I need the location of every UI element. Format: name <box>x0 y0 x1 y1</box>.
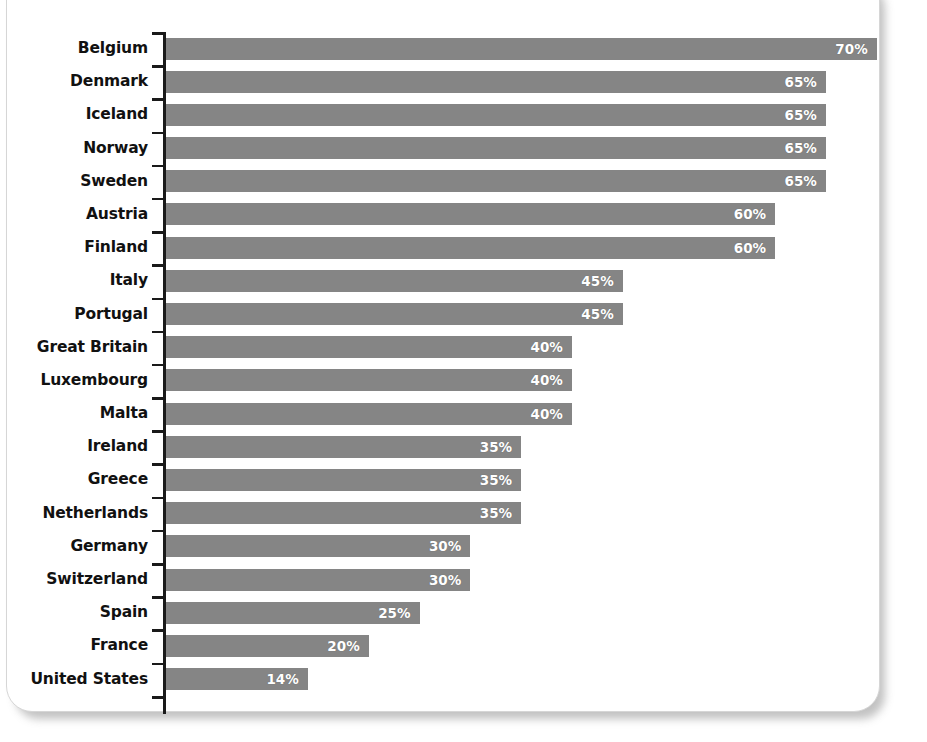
bar-container: 45% <box>166 270 623 292</box>
category-label: Italy <box>0 264 148 297</box>
bar-row: Ireland35% <box>0 430 927 463</box>
bar-rows: Belgium70%Denmark65%Iceland65%Norway65%S… <box>0 32 927 696</box>
category-label: Greece <box>0 463 148 496</box>
category-label: Iceland <box>0 98 148 131</box>
bar-row: Germany30% <box>0 530 927 563</box>
category-label: Norway <box>0 132 148 165</box>
bar-container: 70% <box>166 38 877 60</box>
axis-tick <box>152 397 165 400</box>
axis-tick <box>152 596 165 599</box>
bar-value-label: 60% <box>734 203 766 225</box>
bar-row: Netherlands35% <box>0 497 927 530</box>
category-label: Netherlands <box>0 497 148 530</box>
bar: 70% <box>166 38 877 60</box>
axis-tick <box>152 663 165 666</box>
bar: 40% <box>166 336 572 358</box>
axis-tick <box>152 198 165 201</box>
bar-row: United States14% <box>0 663 927 696</box>
axis-tick <box>152 65 165 68</box>
bar-value-label: 65% <box>785 104 817 126</box>
bar-row: Denmark65% <box>0 65 927 98</box>
bar-row: Spain25% <box>0 596 927 629</box>
bar-row: Austria60% <box>0 198 927 231</box>
axis-tick <box>152 98 165 101</box>
bar-value-label: 70% <box>835 38 867 60</box>
axis-tick <box>152 629 165 632</box>
axis-tick <box>152 298 165 301</box>
category-label: Austria <box>0 198 148 231</box>
bar-row: Finland60% <box>0 231 927 264</box>
bar-container: 40% <box>166 369 572 391</box>
bar-value-label: 35% <box>480 436 512 458</box>
bar-container: 14% <box>166 668 308 690</box>
bar-row: Sweden65% <box>0 165 927 198</box>
bar-row: Greece35% <box>0 463 927 496</box>
axis-tick <box>152 264 165 267</box>
axis-tick <box>152 463 165 466</box>
page-root: Belgium70%Denmark65%Iceland65%Norway65%S… <box>0 0 927 742</box>
bar: 30% <box>166 535 471 557</box>
bar-value-label: 30% <box>429 569 461 591</box>
category-label: Sweden <box>0 165 148 198</box>
category-label: Germany <box>0 530 148 563</box>
bar-value-label: 60% <box>734 237 766 259</box>
axis-tick <box>152 32 165 35</box>
bar: 65% <box>166 170 826 192</box>
bar-value-label: 40% <box>531 336 563 358</box>
bar-row: Belgium70% <box>0 32 927 65</box>
category-label: Great Britain <box>0 331 148 364</box>
bar-value-label: 25% <box>378 602 410 624</box>
bar: 35% <box>166 436 522 458</box>
category-label: France <box>0 629 148 662</box>
axis-tick <box>152 231 165 234</box>
bar-row: Great Britain40% <box>0 331 927 364</box>
bar-container: 35% <box>166 436 522 458</box>
category-label: Spain <box>0 596 148 629</box>
category-label: Ireland <box>0 430 148 463</box>
bar: 45% <box>166 303 623 325</box>
bar-value-label: 65% <box>785 170 817 192</box>
bar-value-label: 35% <box>480 502 512 524</box>
category-label: Portugal <box>0 298 148 331</box>
axis-tick <box>152 132 165 135</box>
bar: 65% <box>166 137 826 159</box>
bar: 60% <box>166 203 776 225</box>
category-label: United States <box>0 663 148 696</box>
bar-value-label: 30% <box>429 535 461 557</box>
axis-tick <box>152 364 165 367</box>
bar-container: 65% <box>166 104 826 126</box>
bar-row: France20% <box>0 629 927 662</box>
category-label: Luxembourg <box>0 364 148 397</box>
bar-value-label: 40% <box>531 403 563 425</box>
bar-chart: Belgium70%Denmark65%Iceland65%Norway65%S… <box>0 0 927 742</box>
bar: 40% <box>166 369 572 391</box>
bar: 30% <box>166 569 471 591</box>
bar-container: 40% <box>166 403 572 425</box>
axis-tick <box>152 563 165 566</box>
bar-row: Italy45% <box>0 264 927 297</box>
bar-row: Iceland65% <box>0 98 927 131</box>
axis-tick <box>152 165 165 168</box>
bar-row: Malta40% <box>0 397 927 430</box>
bar-container: 65% <box>166 170 826 192</box>
axis-tick <box>152 331 165 334</box>
bar: 20% <box>166 635 369 657</box>
bar-row: Luxembourg40% <box>0 364 927 397</box>
category-label: Finland <box>0 231 148 264</box>
bar-container: 45% <box>166 303 623 325</box>
bar-value-label: 40% <box>531 369 563 391</box>
bar-container: 65% <box>166 137 826 159</box>
bar-row: Switzerland30% <box>0 563 927 596</box>
bar-container: 60% <box>166 237 776 259</box>
bar: 14% <box>166 668 308 690</box>
bar-container: 30% <box>166 535 471 557</box>
bar-value-label: 35% <box>480 469 512 491</box>
bar-container: 35% <box>166 469 522 491</box>
axis-tick <box>152 430 165 433</box>
bar-container: 60% <box>166 203 776 225</box>
bar-container: 30% <box>166 569 471 591</box>
category-label: Malta <box>0 397 148 430</box>
bar-container: 20% <box>166 635 369 657</box>
bar: 60% <box>166 237 776 259</box>
bar: 65% <box>166 104 826 126</box>
